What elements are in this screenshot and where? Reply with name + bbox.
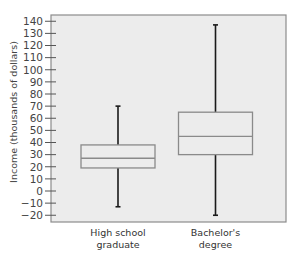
iqr-box (179, 112, 253, 154)
category-label-line1: High school (90, 227, 145, 238)
y-tick-label: 0 (36, 185, 43, 197)
y-tick-label: 140 (23, 15, 43, 27)
y-axis-title: Income (thousands of dollars) (8, 41, 19, 183)
y-tick-label: 130 (23, 27, 43, 39)
y-tick-label: 70 (30, 100, 43, 112)
y-tick-label: 10 (30, 173, 43, 185)
iqr-box (81, 145, 155, 168)
y-tick-label: 50 (30, 124, 43, 136)
y-tick-label: −20 (21, 209, 43, 221)
y-tick-label: 80 (30, 88, 43, 100)
y-tick-label: 100 (23, 64, 43, 76)
y-tick-label: 40 (30, 136, 43, 148)
box-plot-chart: −20−100102030405060708090100110120130140… (0, 0, 296, 256)
y-tick-label: 110 (23, 51, 43, 63)
category-label-line2: graduate (96, 239, 139, 250)
y-tick-label: 90 (30, 76, 43, 88)
category-label-line2: degree (199, 239, 232, 250)
y-tick-label: 20 (30, 161, 43, 173)
x-axis-labels: High schoolgraduateBachelor'sdegree (90, 227, 240, 250)
y-tick-label: 30 (30, 148, 43, 160)
category-label-line1: Bachelor's (191, 227, 240, 238)
y-tick-label: −10 (21, 197, 43, 209)
y-tick-label: 120 (23, 39, 43, 51)
y-tick-label: 60 (30, 112, 43, 124)
